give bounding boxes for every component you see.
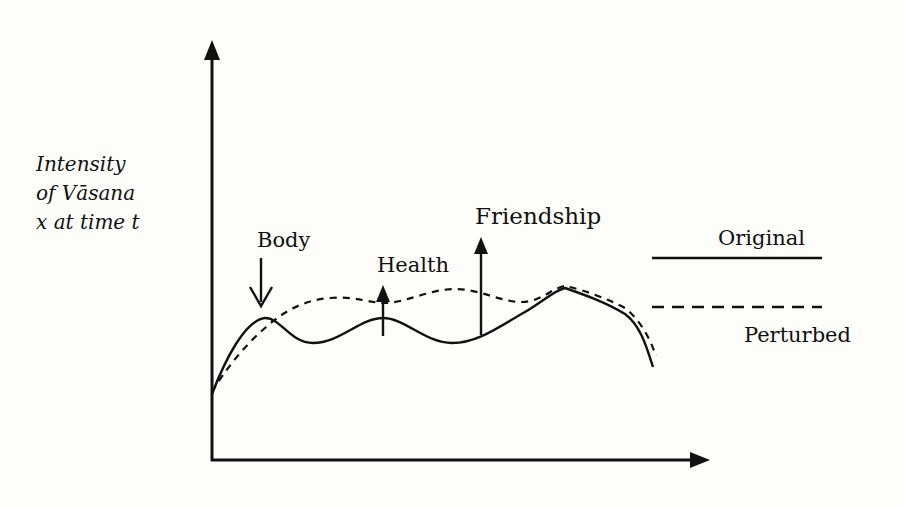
legend-perturbed-label: Perturbed	[744, 323, 851, 347]
y-axis-label-line-1: Intensity	[36, 150, 140, 179]
y-axis-label-line-2: of Vāsana	[36, 179, 140, 208]
y-axis-label-line-3: x at time t	[36, 208, 140, 237]
y-axis-label: Intensity of Vāsana x at time t	[36, 150, 140, 237]
vasana-intensity-diagram: Intensity of Vāsana x at time t Body Hea…	[0, 0, 904, 506]
y-axis	[204, 40, 220, 461]
friendship-annotation-label: Friendship	[475, 203, 601, 229]
body-arrow-icon	[250, 258, 272, 306]
health-annotation-label: Health	[377, 253, 449, 277]
x-axis-arrow-icon	[690, 452, 710, 468]
friendship-arrow-icon	[474, 237, 488, 335]
diagram-canvas	[0, 0, 904, 506]
health-arrow-icon	[376, 285, 390, 336]
legend-original-label: Original	[718, 226, 805, 250]
body-annotation-label: Body	[257, 228, 310, 252]
x-axis	[211, 452, 710, 468]
original-curve	[212, 288, 653, 394]
y-axis-arrow-icon	[204, 40, 220, 60]
